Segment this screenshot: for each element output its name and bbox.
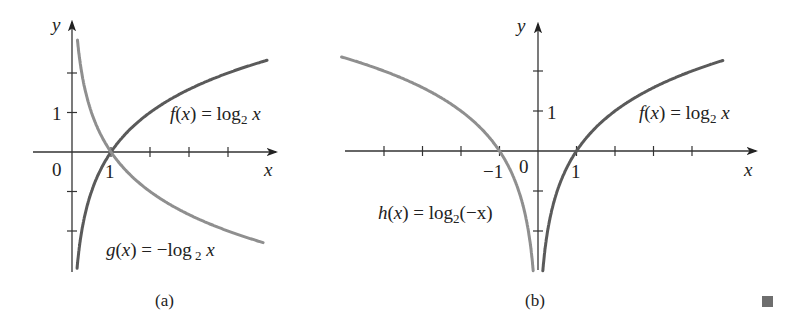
y-tick-label-1-b: 1 <box>547 102 557 123</box>
y-axis-label-a: y <box>50 14 61 35</box>
panel-b: y x 0 −1 1 1 f(x) = log2 x h(x) = log2(−… <box>342 15 756 310</box>
origin-label-a: 0 <box>52 159 62 180</box>
caption-b: (b) <box>525 291 545 310</box>
origin-label-b: 0 <box>519 156 529 177</box>
x-axis-label-a: x <box>263 159 273 180</box>
x-tick-label-neg1-b: −1 <box>483 161 503 182</box>
figure: y x 0 1 1 f(x) = log2 x g(x) = −log 2 x … <box>0 0 796 330</box>
panel-a: y x 0 1 1 f(x) = log2 x g(x) = −log 2 x … <box>33 14 276 310</box>
annotation-f-b: f(x) = log2 x <box>639 102 730 126</box>
x-tick-label-1-b: 1 <box>571 161 581 182</box>
caption-a: (a) <box>155 291 174 310</box>
annotation-f-a: f(x) = log2 x <box>170 103 261 127</box>
y-tick-label-1-a: 1 <box>52 103 62 124</box>
curve-h-log2-neg-x <box>342 57 534 271</box>
x-tick-label-1-a: 1 <box>105 161 115 182</box>
curve-f-log2x <box>543 61 723 271</box>
x-axis-label-b: x <box>743 159 753 180</box>
annotation-h-b: h(x) = log2(−x) <box>378 202 492 226</box>
annotation-g-a: g(x) = −log 2 x <box>106 239 215 263</box>
y-axis-label-b: y <box>515 15 526 36</box>
end-of-proof-square-icon <box>762 296 773 307</box>
